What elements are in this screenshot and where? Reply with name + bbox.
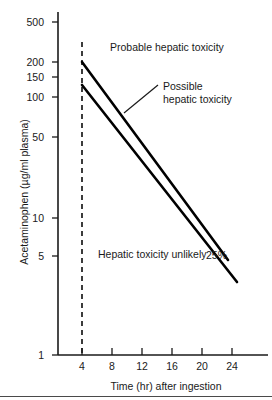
x-tick-label-16: 16 bbox=[161, 361, 183, 372]
x-tick-label-4: 4 bbox=[71, 361, 93, 372]
y-tick-label-500: 500 bbox=[10, 17, 44, 28]
nomogram-figure: 500 200 150 100 50 10 5 1 4 8 12 16 20 2… bbox=[0, 0, 272, 400]
annotation-25-percent: 25% bbox=[206, 249, 227, 262]
annotation-possible-line-2: hepatic toxicity bbox=[163, 93, 232, 106]
y-axis-title: Acetaminophen (µg/ml plasma) bbox=[18, 112, 30, 272]
x-tick-marks bbox=[82, 348, 232, 355]
x-tick-label-24: 24 bbox=[221, 361, 243, 372]
annotation-possible-hepatic-toxicity: Possible hepatic toxicity bbox=[163, 80, 232, 105]
y-tick-marks bbox=[52, 22, 58, 355]
y-tick-label-150: 150 bbox=[10, 72, 44, 83]
x-tick-label-8: 8 bbox=[101, 361, 123, 372]
possible-toxicity-leader-line bbox=[124, 85, 158, 113]
annotation-hepatic-toxicity-unlikely: Hepatic toxicity unlikely bbox=[98, 248, 207, 261]
y-tick-label-1: 1 bbox=[10, 350, 44, 361]
annotation-probable-hepatic-toxicity: Probable hepatic toxicity bbox=[110, 41, 224, 54]
x-tick-label-12: 12 bbox=[131, 361, 153, 372]
annotation-possible-line-1: Possible bbox=[163, 80, 232, 93]
bottom-divider-rule bbox=[0, 396, 272, 397]
y-tick-label-200: 200 bbox=[10, 57, 44, 68]
x-axis-title: Time (hr) after ingestion bbox=[66, 380, 266, 392]
x-tick-label-20: 20 bbox=[191, 361, 213, 372]
y-tick-label-100: 100 bbox=[10, 92, 44, 103]
